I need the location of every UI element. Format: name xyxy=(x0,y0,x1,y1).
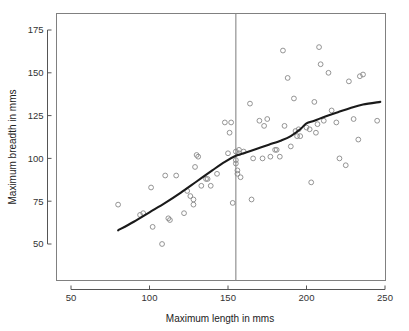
x-tick-label: 100 xyxy=(142,292,158,303)
x-tick-label: 150 xyxy=(220,292,236,303)
x-axis-title: Maximum length in mms xyxy=(166,313,274,324)
y-tick-label: 175 xyxy=(28,24,44,35)
scatter-plot-figure: 5075100125150175 50100150200250 Maximum … xyxy=(0,0,409,331)
x-tick-label: 250 xyxy=(377,292,393,303)
x-tick-label: 50 xyxy=(66,292,77,303)
y-tick-label: 50 xyxy=(33,238,44,249)
figure-background xyxy=(0,0,409,331)
x-tick-label: 200 xyxy=(299,292,315,303)
y-axis-title: Maximum breadth in mms xyxy=(7,89,18,204)
y-tick-label: 125 xyxy=(28,110,44,121)
y-tick-label: 150 xyxy=(28,67,44,78)
plot-canvas: 5075100125150175 50100150200250 Maximum … xyxy=(0,0,409,331)
y-tick-label: 100 xyxy=(28,153,44,164)
y-tick-label: 75 xyxy=(33,196,44,207)
